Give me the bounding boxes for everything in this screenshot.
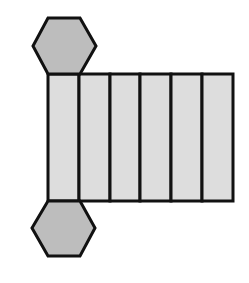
lateral-face-5 [171,74,202,201]
prism-net-diagram: Net of a hexagonal prism [0,0,249,283]
lateral-face-3 [110,74,140,201]
lateral-face-2 [79,74,110,201]
lateral-face-6 [202,74,233,201]
hexagonal-prism-net [0,0,249,283]
lateral-faces-group [48,74,233,201]
top-base-hexagon [33,18,96,74]
lateral-face-4 [140,74,171,201]
lateral-face-1 [48,74,79,201]
bottom-base-hexagon [32,201,95,256]
